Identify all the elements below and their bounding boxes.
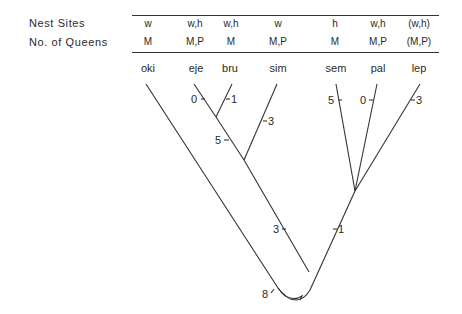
branch-label-eje-bru-stem: 5	[215, 134, 221, 146]
branch-label-eje: 0	[191, 93, 197, 105]
branch-label-pal: 0	[360, 94, 366, 106]
branch-oki	[146, 84, 302, 300]
branch-label-sim: 3	[268, 115, 274, 127]
branch-label-lep: 3	[416, 94, 422, 106]
branch-right-stem	[310, 191, 355, 290]
phylogenetic-tree: 0 1 3 5 5 0 3 3 1 8	[0, 0, 462, 314]
branch-label-sem: 5	[328, 94, 334, 106]
branch-label-bru: 1	[231, 93, 237, 105]
branch-label-right-clade-stem: 1	[338, 223, 344, 235]
branch-left-stem	[244, 160, 309, 272]
branch-eje	[194, 84, 216, 117]
branch-label-root: 8	[262, 288, 268, 300]
branch-label-left-clade-stem: 3	[273, 223, 279, 235]
branch-bru	[216, 84, 232, 117]
